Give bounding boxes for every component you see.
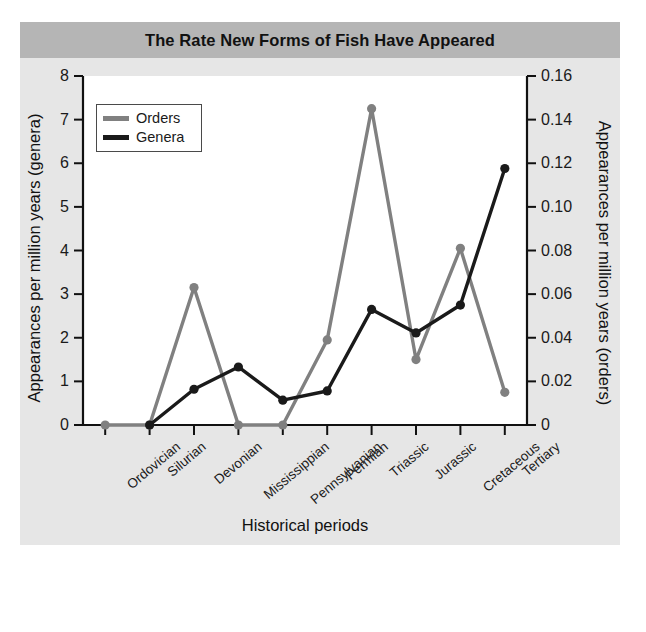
y-axis-left-tick-label: 3 [60,286,69,302]
y-axis-right-tick-label: 0.08 [541,243,572,259]
y-axis-left-tick-label: 5 [60,199,69,215]
y-axis-right-tick-label: 0.14 [541,112,572,128]
y-axis-right-tick-label: 0.10 [541,199,572,215]
y-axis-right-title: Appearances per million years (orders) [597,121,614,405]
y-axis-left-tick-label: 2 [60,330,69,346]
legend-label-orders: Orders [136,111,180,126]
legend-swatch-genera-icon [103,135,129,140]
y-axis-left-tick-label: 6 [60,155,69,171]
chart-legend: Orders Genera [96,104,202,152]
y-axis-right-tick-label: 0.02 [541,373,572,389]
y-axis-right-tick-label: 0.12 [541,155,572,171]
y-axis-right-tick-label: 0.16 [541,68,572,84]
chart-area: 012345678 00.020.040.060.080.100.120.140… [20,58,620,545]
x-axis-title: Historical periods [242,516,369,535]
y-axis-right-tick-label: 0.04 [541,330,572,346]
y-axis-right-tick-label: 0.06 [541,286,572,302]
page-title: The Rate New Forms of Fish Have Appeared [145,31,495,50]
legend-swatch-orders-icon [103,116,129,121]
y-axis-left-tick-label: 8 [60,68,69,84]
chart-title-band: The Rate New Forms of Fish Have Appeared [20,22,620,58]
legend-item: Orders [103,109,195,128]
y-axis-right-tick-label: 0 [541,417,550,433]
figure-card: The Rate New Forms of Fish Have Appeared… [20,22,620,545]
legend-item: Genera [103,128,195,147]
y-axis-left-title: Appearances per million years (genera) [26,114,43,403]
y-axis-left-tick-label: 1 [60,373,69,389]
y-axis-left-tick-label: 7 [60,112,69,128]
series-lines [101,104,510,429]
y-axis-left-tick-label: 4 [60,243,69,259]
y-axis-left-tick-label: 0 [60,417,69,433]
legend-label-genera: Genera [136,130,184,145]
